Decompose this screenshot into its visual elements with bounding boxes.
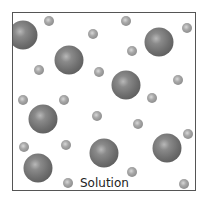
small-particle [133,119,143,129]
small-particle [94,67,104,77]
small-particle [182,23,192,33]
small-particle [179,179,189,189]
solution-label: Solution [80,176,129,190]
small-particle [92,111,102,121]
small-particle [44,16,54,26]
large-particle [12,21,38,50]
large-particle [29,105,58,134]
solution-container: Solution [12,12,196,191]
small-particle [127,46,137,56]
large-particle [55,46,84,75]
small-particle [121,16,131,26]
small-particle [18,95,28,105]
small-particle [183,129,193,139]
small-particle [61,140,71,150]
small-particle [147,93,157,103]
small-particle [88,29,98,39]
small-particle [173,75,183,85]
large-particle [112,71,141,100]
small-particle [19,142,29,152]
large-particle [90,139,119,168]
large-particle [153,134,182,163]
small-particle [34,65,44,75]
small-particle [59,95,69,105]
large-particle [145,28,174,57]
small-particle [63,178,73,188]
large-particle [24,154,53,183]
